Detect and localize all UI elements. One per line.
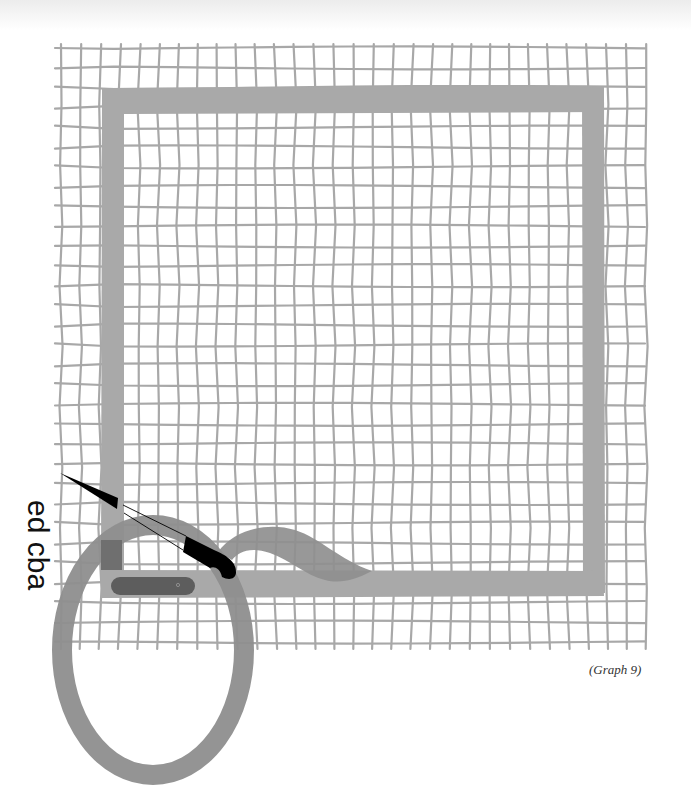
side-label: ed cba xyxy=(23,500,53,590)
overlap-left xyxy=(101,540,122,570)
graph-illustration xyxy=(0,0,691,806)
figure-caption: (Graph 9) xyxy=(589,662,641,678)
dark-bar xyxy=(111,577,195,595)
grid xyxy=(55,44,648,649)
